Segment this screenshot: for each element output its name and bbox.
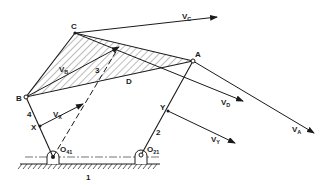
label-link-3: 3 bbox=[95, 66, 100, 75]
label-b: B bbox=[16, 94, 22, 103]
point-y bbox=[167, 110, 170, 113]
label-a: A bbox=[195, 50, 201, 59]
vc-arrow bbox=[75, 17, 217, 33]
point-x bbox=[39, 125, 42, 128]
label-va: VA bbox=[292, 125, 301, 135]
label-o21: O21 bbox=[147, 145, 159, 155]
vy-arrow bbox=[168, 111, 235, 143]
joint-c bbox=[73, 31, 76, 34]
label-y: Y bbox=[160, 103, 166, 112]
joint-b bbox=[24, 95, 28, 99]
label-vx: VX bbox=[53, 110, 62, 120]
coupler-link-3 bbox=[26, 33, 193, 97]
label-vy: VY bbox=[211, 135, 220, 145]
label-vd: VD bbox=[221, 98, 230, 108]
link-2 bbox=[141, 61, 193, 155]
label-link-1: 1 bbox=[86, 173, 91, 182]
label-link-2: 2 bbox=[156, 128, 161, 137]
label-d: D bbox=[126, 77, 132, 86]
label-vc: VC bbox=[182, 12, 191, 22]
va-arrow bbox=[193, 61, 314, 133]
label-o41: O41 bbox=[60, 145, 72, 155]
label-link-4: 4 bbox=[27, 110, 32, 119]
joint-a bbox=[191, 59, 195, 63]
label-c: C bbox=[71, 22, 77, 31]
pivot-o41 bbox=[51, 155, 55, 159]
linkage-diagram: C B A D X Y O41 O21 1 2 3 4 VC VB VD VA … bbox=[0, 0, 328, 185]
pivot-o21 bbox=[139, 153, 143, 157]
label-x: X bbox=[31, 123, 37, 132]
diagram-svg: C B A D X Y O41 O21 1 2 3 4 VC VB VD VA … bbox=[0, 0, 328, 185]
